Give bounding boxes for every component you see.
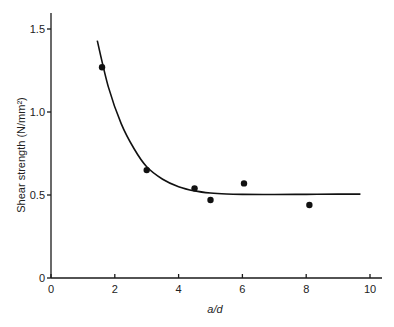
x-tick-label: 4 xyxy=(176,283,182,295)
data-point xyxy=(144,167,150,173)
x-tick-label: 6 xyxy=(239,283,245,295)
data-point xyxy=(241,180,247,186)
y-tick-label: 0 xyxy=(39,272,45,284)
data-point xyxy=(99,64,105,70)
fitted-curve xyxy=(97,41,360,195)
y-axis-label: Shear strength (N/mm²) xyxy=(15,97,27,213)
data-point xyxy=(207,197,213,203)
x-tick-label: 8 xyxy=(303,283,309,295)
data-points xyxy=(99,64,313,208)
x-tick-label: 10 xyxy=(364,283,376,295)
shear-strength-chart: 024681000.51.01.5 a/d Shear strength (N/… xyxy=(0,0,394,327)
y-tick-label: 1.5 xyxy=(30,23,45,35)
x-axis-label: a/d xyxy=(207,303,223,315)
y-tick-label: 0.5 xyxy=(30,189,45,201)
x-tick-label: 0 xyxy=(48,283,54,295)
y-tick-label: 1.0 xyxy=(30,106,45,118)
ticks: 024681000.51.01.5 xyxy=(30,23,376,295)
data-point xyxy=(306,202,312,208)
data-point xyxy=(191,185,197,191)
x-tick-label: 2 xyxy=(112,283,118,295)
